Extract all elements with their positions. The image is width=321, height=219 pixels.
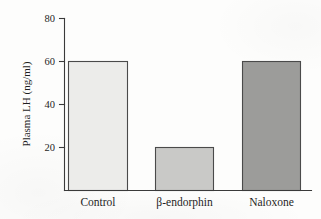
y-tick-label-20: 20 [45,142,56,153]
bar-chart: 80 60 40 20 Plasma LH (ng/ml) Control β-… [0,0,321,219]
y-axis-title: Plasma LH (ng/ml) [20,61,33,146]
y-tick-label-80: 80 [45,13,56,24]
y-tick-label-60: 60 [45,56,56,67]
x-category-label-control: Control [80,196,115,208]
y-axis: 80 60 40 20 Plasma LH (ng/ml) [20,13,65,191]
x-category-label-naloxone: Naloxone [249,196,294,208]
bar-control[interactable] [69,62,128,191]
y-tick-label-40: 40 [45,99,56,110]
bar-naloxone[interactable] [243,62,301,191]
x-category-label-beta-endorphin: β-endorphin [156,196,213,209]
bars-group [69,62,301,191]
figure-panel: 80 60 40 20 Plasma LH (ng/ml) Control β-… [0,0,321,219]
x-axis: Control β-endorphin Naloxone [65,191,312,210]
bar-beta-endorphin[interactable] [156,148,214,191]
